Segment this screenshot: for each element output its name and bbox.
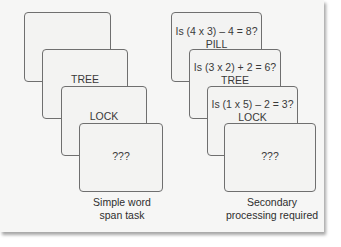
card-word: TREE [43,73,127,85]
left-caption: Simple word span task [74,196,170,222]
card-question: Is (1 x 5) – 2 = 3? [208,98,297,110]
card-unknown: ??? [225,150,315,162]
card-word: LOCK [208,111,297,123]
left-caption-line2: span task [74,209,170,222]
figure-panel: PILL TREE LOCK ??? Simple word span task… [0,0,324,232]
card-word: LOCK [62,110,146,122]
card-question: Is (4 x 3) – 4 = 8? [172,25,261,37]
word-card-4: ??? [79,123,163,192]
right-caption: Secondary processing required [212,196,332,222]
right-caption-line1: Secondary [212,196,332,209]
card-question: Is (3 x 2) + 2 = 6? [190,61,280,73]
card-word: TREE [190,74,280,86]
processing-card-4: ??? [224,123,316,192]
left-caption-line1: Simple word [74,196,170,209]
card-unknown: ??? [80,150,162,162]
right-caption-line2: processing required [212,209,332,222]
